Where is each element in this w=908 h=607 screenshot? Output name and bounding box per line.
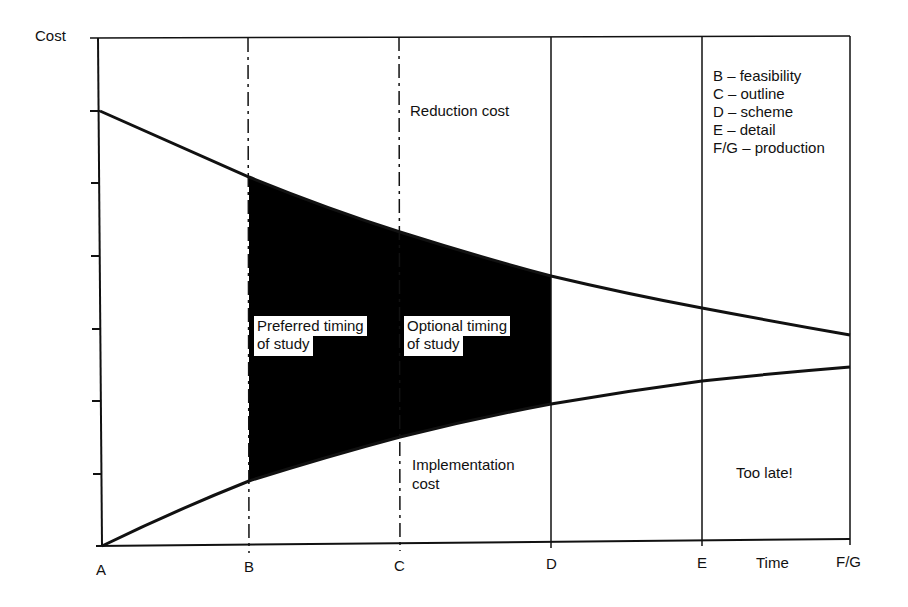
too-late-label: Too late! — [736, 464, 793, 482]
legend-item-production: F/G – production — [713, 139, 825, 157]
stage-legend: B – feasibility C – outline D – scheme E… — [713, 67, 825, 157]
x-tick-A: A — [96, 561, 106, 579]
optional-timing-label-line2: of study — [404, 334, 463, 356]
implementation-cost-label-line2: cost — [412, 475, 440, 493]
x-tick-B: B — [244, 558, 254, 576]
x-tick-E: E — [697, 554, 707, 572]
reduction-cost-label: Reduction cost — [410, 102, 509, 120]
implementation-cost-label-line1: Implementation — [412, 456, 515, 474]
preferred-timing-label-line1: Preferred timing — [254, 316, 367, 336]
y-axis — [98, 38, 102, 546]
optional-timing-label-line1: Optional timing — [404, 316, 510, 336]
legend-item-feasibility: B – feasibility — [713, 67, 825, 85]
x-tick-C: C — [394, 557, 405, 575]
top-border — [90, 36, 850, 38]
x-tick-D: D — [546, 555, 557, 573]
x-axis — [96, 539, 850, 546]
y-axis-label: Cost — [35, 27, 66, 45]
x-axis-label: Time — [756, 554, 789, 572]
x-tick-FG: F/G — [836, 553, 861, 571]
legend-item-outline: C – outline — [713, 85, 825, 103]
marker-B — [248, 38, 249, 553]
legend-item-detail: E – detail — [713, 121, 825, 139]
legend-item-scheme: D – scheme — [713, 103, 825, 121]
preferred-timing-label-line2: of study — [254, 334, 313, 356]
